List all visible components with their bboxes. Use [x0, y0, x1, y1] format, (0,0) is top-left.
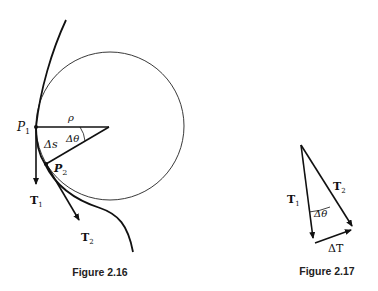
label-t1: T1 [30, 194, 43, 209]
label-t2-2-17: T2 [333, 180, 346, 195]
vector-t1 [301, 145, 313, 238]
angle-arc [80, 127, 85, 141]
label-delta-theta: Δθ [65, 133, 79, 144]
caption-figure-2-16: Figure 2.16 [72, 266, 128, 278]
label-delta-t: ΔT [328, 242, 344, 255]
label-p1: P1 [16, 120, 30, 136]
label-t1-2-17: T1 [287, 193, 300, 208]
label-rho: ρ [67, 112, 74, 123]
caption-figure-2-17: Figure 2.17 [299, 265, 355, 277]
label-delta-theta-2-17: Δθ [313, 208, 327, 219]
label-t2: T2 [81, 231, 94, 246]
osculating-circle [36, 52, 184, 200]
figure-2-16: P1 ρ Δθ Δs P2 T1 T2 Figure 2.16 [16, 20, 184, 278]
label-delta-s: Δs [43, 138, 58, 151]
figure-2-17: T1 T2 Δθ ΔT Figure 2.17 [287, 145, 355, 277]
label-p2: P2 [53, 162, 67, 177]
diagram-canvas: P1 ρ Δθ Δs P2 T1 T2 Figure 2.16 T1 T2 Δθ… [0, 0, 378, 291]
